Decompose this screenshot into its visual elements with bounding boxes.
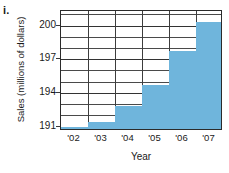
y-tick-label: 200 [28, 20, 56, 30]
bar [61, 127, 88, 131]
y-tick-label: 191 [28, 121, 56, 131]
bar [88, 122, 115, 130]
bar [169, 51, 196, 130]
x-tick-label: '05 [141, 132, 168, 143]
item-label: i. [3, 4, 10, 16]
y-tick-label: 194 [28, 87, 56, 97]
gridline-horizontal [61, 14, 221, 15]
y-tick-label: 197 [28, 53, 56, 63]
chart-figure: i. Sales (millions of dollars) 191194197… [0, 0, 229, 173]
x-tick-label: '03 [87, 132, 114, 143]
x-axis-title: Year [60, 151, 222, 162]
x-tick-label: '07 [195, 132, 222, 143]
bar [115, 106, 142, 130]
bar [142, 85, 169, 130]
x-axis-tick-labels: '02'03'04'05'06'07 [60, 132, 222, 146]
x-tick-label: '04 [114, 132, 141, 143]
bar [196, 22, 222, 130]
gridline-vertical [88, 11, 89, 129]
plot-area [60, 10, 222, 130]
y-axis-tick-labels: 191194197200 [26, 0, 56, 173]
x-tick-label: '02 [60, 132, 87, 143]
y-axis-title: Sales (millions of dollars) [15, 11, 26, 129]
x-tick-label: '06 [168, 132, 195, 143]
